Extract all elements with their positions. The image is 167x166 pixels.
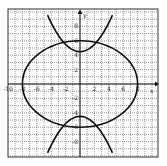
svg-text:-2: -2 bbox=[72, 94, 78, 101]
frame bbox=[8, 9, 158, 157]
svg-text:-10: -10 bbox=[3, 85, 13, 92]
svg-text:6: 6 bbox=[121, 85, 125, 92]
svg-text:-2: -2 bbox=[63, 85, 69, 92]
svg-text:-8: -8 bbox=[72, 138, 78, 145]
svg-text:2: 2 bbox=[92, 85, 96, 92]
svg-text:-4: -4 bbox=[48, 85, 54, 92]
svg-text:-4: -4 bbox=[72, 109, 78, 116]
y-axis-label: y bbox=[82, 11, 87, 19]
svg-text:8: 8 bbox=[74, 22, 78, 29]
svg-text:2: 2 bbox=[74, 66, 78, 73]
graph: -10-8-6-4-224688642-2-4-6-8 x y bbox=[0, 0, 167, 166]
svg-text:-6: -6 bbox=[34, 85, 40, 92]
svg-text:4: 4 bbox=[74, 51, 78, 58]
svg-text:4: 4 bbox=[107, 85, 111, 92]
